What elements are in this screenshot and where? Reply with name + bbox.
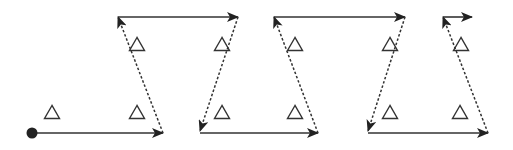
triangle-icon — [288, 37, 303, 50]
triangle-icon — [288, 105, 303, 118]
dashed-arrow — [200, 17, 238, 131]
zigzag-path-diagram — [0, 0, 513, 150]
triangle-icon — [130, 37, 145, 50]
dashed-arrows-group — [118, 17, 488, 133]
triangle-icon — [130, 105, 145, 118]
triangle-icon — [45, 105, 60, 118]
triangle-markers-group — [45, 37, 469, 118]
start-point-group — [27, 128, 38, 139]
triangle-icon — [453, 105, 468, 118]
start-dot-icon — [27, 128, 38, 139]
triangle-icon — [383, 105, 398, 118]
solid-arrows-group — [32, 17, 488, 133]
dashed-arrow — [274, 17, 318, 133]
triangle-icon — [215, 105, 230, 118]
dashed-arrow — [368, 17, 405, 131]
dashed-arrow — [118, 17, 163, 133]
